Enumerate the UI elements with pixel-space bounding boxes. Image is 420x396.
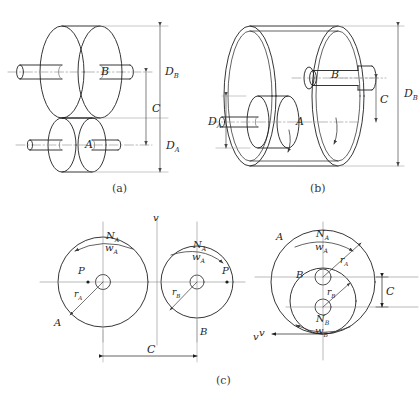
dim-label-db-a: DB [165, 66, 179, 80]
dim-label-da-a-sub: A [175, 146, 180, 154]
label-ra-c-right-sub: A [344, 261, 348, 267]
dim-label-c-a: C [152, 103, 160, 114]
label-rb-c-right: rB [327, 288, 335, 299]
panel-b-drawing [210, 26, 404, 166]
label-wb-c-right-base: w [315, 325, 324, 336]
label-circle-a-c-right: A [276, 232, 283, 242]
dim-label-da-a-base: D [166, 139, 175, 152]
label-ra-c-left: rA [74, 290, 82, 301]
label-wa-c-left: wA [105, 243, 118, 255]
label-wb-c-right-sub: B [324, 331, 329, 338]
dim-label-da-a: DA [166, 140, 180, 154]
label-disk-a-b: A [296, 116, 304, 127]
label-na-c-right: NA [316, 229, 329, 241]
label-nb-c-left-sub: A [202, 245, 206, 252]
label-na-c-right-sub: A [325, 234, 329, 241]
figure-vector-layer [0, 0, 420, 396]
label-rb-c-left: rB [172, 288, 180, 299]
label-p-left-c: P [78, 266, 85, 276]
label-wa-c-left-base: w [105, 242, 114, 253]
dim-label-c-c-right: C [386, 286, 394, 297]
label-disk-a-a: A [85, 139, 93, 150]
dim-label-da-b-sub: A [217, 122, 222, 130]
dim-label-c-b: C [380, 94, 388, 105]
label-wa-c-right-sub: A [324, 247, 328, 254]
caption-panel-b: (b) [310, 183, 326, 194]
label-disk-b-a: B [101, 66, 109, 77]
label-circle-b-c-right: B [296, 270, 303, 280]
dim-label-da-b-base: D [208, 115, 217, 128]
dim-label-c-c-left: C [147, 344, 155, 355]
dim-label-db-a-sub: B [174, 72, 179, 80]
label-v-bottom-c-left: v [253, 332, 259, 342]
dim-label-db-b-sub: B [413, 94, 418, 102]
label-na-c-left-base: N [106, 230, 115, 241]
label-p-right-c: P [222, 266, 229, 276]
label-v-top-c-left: v [153, 213, 159, 223]
label-na-c-right-base: N [316, 228, 325, 239]
label-wa-c-right: wA [315, 242, 328, 254]
label-na-c-left-sub: A [115, 236, 119, 243]
panel-c-left-drawing [40, 218, 245, 362]
label-nb-c-right-base: N [316, 313, 325, 324]
label-wb-c-left-base: w [192, 251, 201, 262]
label-nb-c-left-base: N [193, 239, 202, 250]
label-v-c-right: v [259, 328, 265, 338]
label-rb-c-right-sub: B [331, 293, 335, 299]
dim-label-db-b-base: D [404, 87, 413, 100]
label-ra-c-right: rA [340, 256, 348, 267]
label-circle-b-c-left: B [200, 327, 207, 337]
dim-label-db-a-base: D [165, 65, 174, 78]
label-wa-c-left-sub: A [114, 248, 118, 255]
label-wb-c-left-sub: A [201, 257, 205, 264]
dim-label-da-b: DA [208, 116, 222, 130]
caption-panel-c: (c) [216, 375, 231, 386]
label-circle-a-c-left: A [54, 318, 61, 328]
figure-canvas: B A DB C DA (a) B A DB DA C (b) NA wA NA… [0, 0, 420, 396]
caption-panel-a: (a) [112, 183, 127, 194]
label-ra-c-left-sub: A [78, 295, 82, 301]
label-disk-b-b: B [331, 69, 339, 80]
label-wb-c-left: wA [192, 252, 205, 264]
label-wb-c-right: wB [315, 326, 328, 338]
label-wa-c-right-base: w [315, 241, 324, 252]
label-rb-c-left-sub: B [176, 293, 180, 299]
label-nb-c-right-sub: B [325, 319, 330, 326]
dim-label-db-b: DB [404, 88, 418, 102]
